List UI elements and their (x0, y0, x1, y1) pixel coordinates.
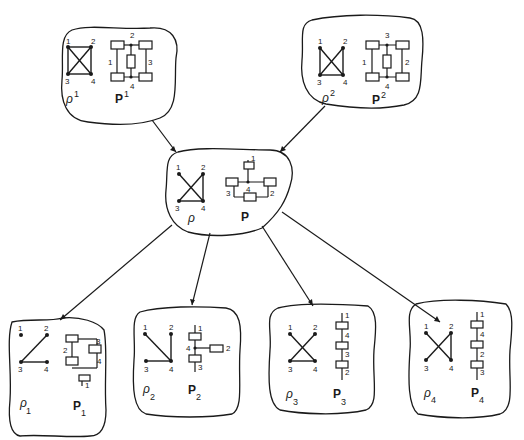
graph-rho-2: 1 2 3 4 (143, 323, 174, 374)
network-superscript: 2 (381, 90, 386, 100)
network-P: 1 2 3 4 (226, 154, 276, 201)
network-P-3: 1 4 3 2 (336, 311, 350, 380)
node-label: 4 (130, 82, 135, 91)
arrow-center-to-p3 (262, 226, 313, 306)
node-label: 2 (130, 31, 135, 40)
graph-rho-4: 1 2 3 4 (424, 322, 454, 373)
network-P1: 2 1 3 4 (108, 31, 153, 91)
node-label: 2 (63, 346, 68, 355)
node-label: 1 (480, 310, 485, 319)
node-label: 1 (18, 324, 23, 333)
node-label: 4 (480, 330, 485, 339)
node-label: 3 (424, 364, 429, 373)
graph-rho-3: 1 2 3 4 (288, 323, 318, 374)
node-label: 4 (449, 364, 454, 373)
network-P-1: 2 3 4 1 (63, 335, 102, 390)
graph-label: ρ (423, 386, 431, 400)
node-label: 1 (198, 324, 203, 333)
node-label: 2 (480, 350, 485, 359)
node-label: 1 (176, 163, 181, 172)
node-label: 2 (226, 344, 231, 353)
network-subscript: 3 (341, 397, 346, 407)
network-label: P (115, 92, 123, 106)
node-label: 3 (385, 31, 390, 40)
node-label: 4 (246, 185, 251, 194)
graph-subscript: 4 (431, 395, 436, 405)
network-label: P (188, 383, 196, 397)
node-label: 1 (318, 37, 323, 46)
node-label: 4 (44, 365, 49, 374)
node-label: 3 (18, 365, 23, 374)
node-label: 3 (198, 363, 203, 372)
network-superscript: 1 (124, 89, 129, 99)
network-subscript: 2 (196, 392, 201, 402)
node-label: 2 (313, 323, 318, 332)
node-label: 3 (175, 204, 180, 213)
node-label: 2 (405, 58, 410, 67)
hierarchy-diagram: 1 2 3 4 2 1 3 4 ρ 1 P 1 (0, 0, 524, 440)
node-label: 2 (270, 189, 275, 198)
network-subscript: 1 (81, 408, 86, 418)
node-label: 1 (108, 58, 113, 67)
node-label: 4 (91, 77, 96, 86)
graph-superscript: 1 (74, 89, 79, 99)
graph-label: ρ (321, 91, 329, 105)
node-label: 1 (143, 323, 148, 332)
graph-rho1: 1 2 3 4 (65, 37, 96, 86)
blob-top-right: 1 2 3 4 3 1 2 4 ρ 2 P 2 (302, 15, 423, 108)
node-label: 2 (169, 323, 174, 332)
node-label: 2 (44, 324, 49, 333)
node-label: 4 (345, 331, 350, 340)
arrow-topleft-to-center (152, 120, 176, 152)
arrow-center-to-p1 (60, 225, 172, 320)
graph-label: ρ (65, 92, 73, 106)
graph-rho-1: 1 2 3 4 (18, 324, 49, 374)
node-label: 1 (66, 37, 71, 46)
network-label: P (241, 210, 249, 224)
node-label: 1 (362, 58, 367, 67)
arrow-center-to-p2 (192, 233, 210, 305)
graph-subscript: 2 (150, 392, 155, 402)
graph-superscript: 2 (330, 88, 335, 98)
node-label: 3 (345, 350, 350, 359)
graph-subscript: 3 (293, 397, 298, 407)
node-label: 4 (97, 357, 102, 366)
node-label: 3 (480, 368, 485, 377)
node-label: 2 (91, 37, 96, 46)
node-label: 2 (449, 322, 454, 331)
node-label: 2 (343, 37, 348, 46)
network-label: P (471, 386, 479, 400)
node-label: 4 (169, 365, 174, 374)
node-label: 4 (313, 365, 318, 374)
network-label: P (333, 387, 341, 401)
graph-rho2: 1 2 3 4 (317, 37, 348, 87)
blob-p3: 1 2 3 4 1 4 3 2 ρ 3 P 3 (269, 304, 376, 414)
node-label: 1 (424, 322, 429, 331)
node-label: 2 (201, 163, 206, 172)
node-label: 2 (345, 368, 350, 377)
graph-subscript: 1 (26, 406, 31, 416)
node-label: 3 (96, 337, 101, 346)
network-P-2: 1 2 3 4 (186, 324, 231, 372)
blob-p4: 1 2 3 4 1 4 2 3 ρ 4 P 4 (409, 300, 512, 418)
node-label: 4 (343, 78, 348, 87)
node-label: 4 (201, 204, 206, 213)
network-label: P (372, 93, 380, 107)
arrows (60, 106, 440, 322)
graph-label: ρ (142, 382, 150, 396)
node-label: 3 (288, 365, 293, 374)
network-P2: 3 1 2 4 (362, 31, 410, 91)
network-subscript: 4 (479, 395, 484, 405)
arrow-topright-to-center (280, 106, 325, 152)
blob-p2: 1 2 3 4 1 2 3 4 ρ 2 P 2 (133, 307, 240, 417)
network-P-4: 1 4 2 3 (471, 310, 485, 380)
blob-center: 1 2 3 4 1 2 3 4 ρ P (166, 149, 293, 236)
graph-label: ρ (285, 387, 293, 401)
node-label: 3 (144, 365, 149, 374)
node-label: 1 (288, 323, 293, 332)
graph-rho: 1 2 3 4 (175, 163, 206, 213)
node-label: 3 (317, 78, 322, 87)
node-label: 3 (226, 189, 231, 198)
blob-top-left: 1 2 3 4 2 1 3 4 ρ 1 P 1 (62, 27, 177, 124)
node-label: 1 (345, 311, 350, 320)
